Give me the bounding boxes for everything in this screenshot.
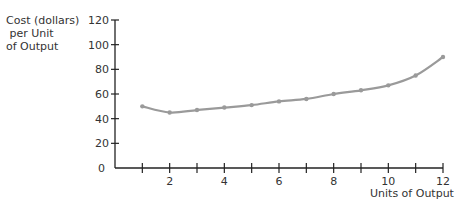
- x-tick-label: 2: [166, 175, 173, 188]
- data-point: [140, 104, 144, 108]
- data-point: [249, 103, 253, 107]
- y-tick-label: 40: [95, 113, 109, 126]
- x-tick-label: 6: [276, 175, 283, 188]
- data-point: [222, 105, 226, 109]
- x-tick-label: 12: [436, 175, 450, 188]
- y-tick-label: 0: [98, 162, 105, 175]
- y-tick-label: 80: [95, 63, 109, 76]
- y-tick-label: 120: [88, 14, 109, 27]
- x-tick-label: 8: [330, 175, 337, 188]
- data-point: [386, 83, 390, 87]
- data-point: [413, 73, 417, 77]
- series-line: [142, 57, 443, 113]
- y-tick-label: 100: [88, 39, 109, 52]
- x-tick-label: 4: [221, 175, 228, 188]
- data-point: [331, 92, 335, 96]
- data-point: [359, 88, 363, 92]
- data-point: [304, 97, 308, 101]
- data-point: [441, 55, 445, 59]
- data-point: [277, 99, 281, 103]
- x-tick-label: 10: [381, 175, 395, 188]
- data-point: [167, 110, 171, 114]
- y-tick-label: 60: [95, 88, 109, 101]
- data-point: [195, 108, 199, 112]
- chart: 02040608010012024681012: [0, 0, 468, 209]
- y-tick-label: 20: [95, 137, 109, 150]
